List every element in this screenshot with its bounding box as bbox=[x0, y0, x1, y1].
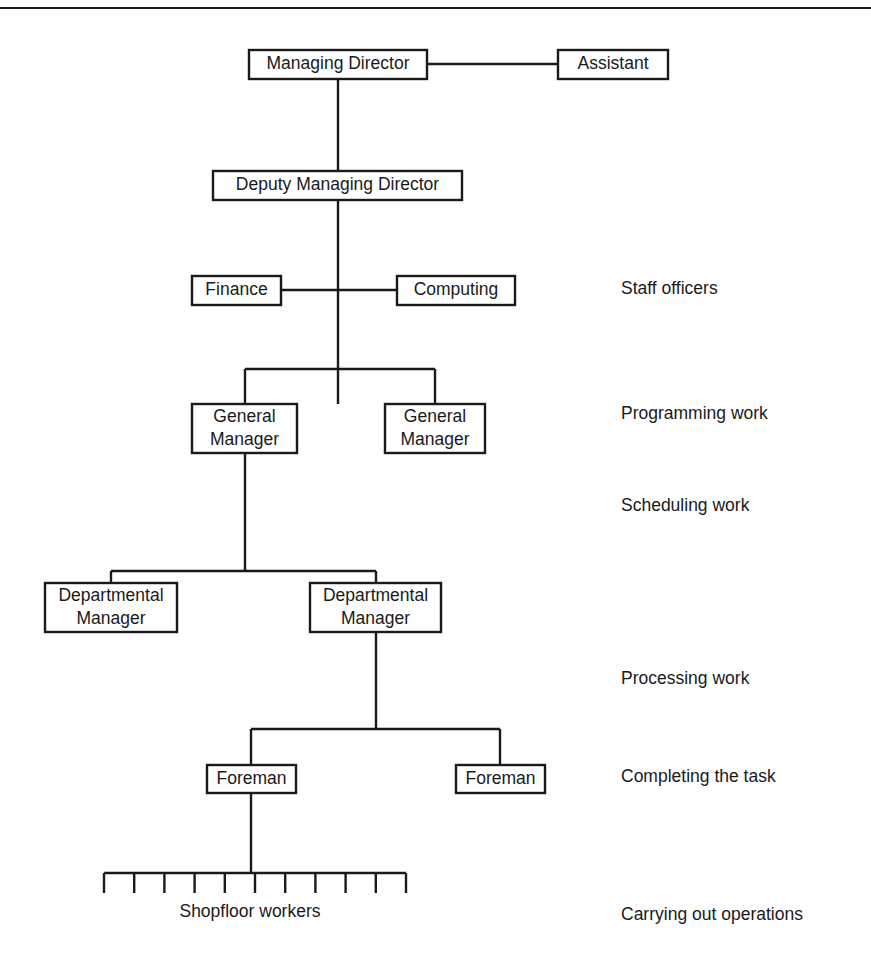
node-label-departmental-manager-2: Departmental bbox=[323, 585, 428, 605]
node-label-foreman-2: Foreman bbox=[465, 768, 535, 788]
node-managing-director[interactable]: Managing Director bbox=[249, 50, 427, 79]
shopfloor-workers-label: Shopfloor workers bbox=[179, 901, 320, 921]
stage-completing-task: Completing the task bbox=[621, 766, 776, 786]
stage-programming-work: Programming work bbox=[621, 403, 768, 423]
node-assistant[interactable]: Assistant bbox=[558, 50, 668, 79]
node-label-departmental-manager-1: Departmental bbox=[58, 585, 163, 605]
node-label-computing: Computing bbox=[414, 279, 499, 299]
node-computing[interactable]: Computing bbox=[397, 276, 515, 305]
node-label-departmental-manager-2: Manager bbox=[341, 608, 410, 628]
node-foreman-2[interactable]: Foreman bbox=[456, 765, 545, 793]
node-departmental-manager-2[interactable]: DepartmentalManager bbox=[310, 583, 441, 632]
node-label-managing-director: Managing Director bbox=[267, 53, 410, 73]
node-label-general-manager-2: General bbox=[404, 406, 466, 426]
node-label-departmental-manager-1: Manager bbox=[76, 608, 145, 628]
stage-processing-work: Processing work bbox=[621, 668, 750, 688]
nodes-layer: Managing DirectorAssistantDeputy Managin… bbox=[45, 50, 668, 793]
node-general-manager-1[interactable]: GeneralManager bbox=[192, 404, 297, 453]
node-foreman-1[interactable]: Foreman bbox=[207, 765, 296, 793]
node-label-general-manager-1: General bbox=[213, 406, 275, 426]
node-label-finance: Finance bbox=[205, 279, 267, 299]
org-chart-diagram: Shopfloor workers Managing DirectorAssis… bbox=[0, 0, 871, 976]
stage-scheduling-work: Scheduling work bbox=[621, 495, 750, 515]
stage-labels-layer: Staff officersProgramming workScheduling… bbox=[621, 278, 803, 924]
node-deputy-managing-director[interactable]: Deputy Managing Director bbox=[213, 171, 462, 200]
node-general-manager-2[interactable]: GeneralManager bbox=[385, 404, 485, 453]
shopfloor-layer: Shopfloor workers bbox=[104, 873, 406, 921]
node-label-general-manager-2: Manager bbox=[400, 429, 469, 449]
node-label-foreman-1: Foreman bbox=[216, 768, 286, 788]
node-label-general-manager-1: Manager bbox=[210, 429, 279, 449]
stage-carrying-operations: Carrying out operations bbox=[621, 904, 803, 924]
node-finance[interactable]: Finance bbox=[192, 276, 281, 305]
node-departmental-manager-1[interactable]: DepartmentalManager bbox=[45, 583, 177, 632]
node-label-deputy-managing-director: Deputy Managing Director bbox=[236, 174, 439, 194]
stage-staff-officers: Staff officers bbox=[621, 278, 718, 298]
node-label-assistant: Assistant bbox=[578, 53, 649, 73]
org-chart-canvas: Shopfloor workers Managing DirectorAssis… bbox=[0, 0, 871, 976]
